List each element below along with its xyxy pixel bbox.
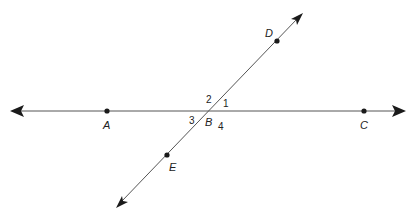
label-a: A [102,119,110,131]
angle-2-label: 2 [206,94,212,105]
point-a [104,108,109,113]
arrowhead-down-left-icon [116,196,128,208]
geometry-diagram: A C D E B 1 2 3 4 [0,0,416,214]
angle-3-label: 3 [189,115,195,126]
point-e [164,152,169,157]
label-b: B [205,116,212,128]
angle-1-label: 1 [223,98,229,109]
label-d: D [265,27,273,39]
angle-4-label: 4 [218,121,224,132]
label-e: E [169,161,177,173]
line-de [122,19,297,201]
label-c: C [360,119,368,131]
point-d [274,38,279,43]
point-c [361,108,366,113]
